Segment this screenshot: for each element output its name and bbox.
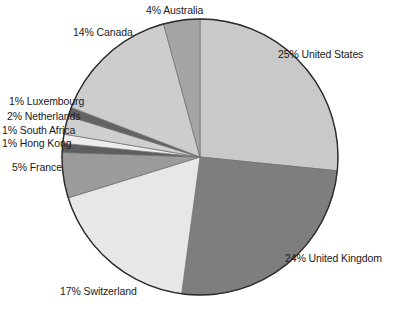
pie-label-hong-kong: 1% Hong Kong: [2, 137, 71, 149]
pie-label-switzerland: 17% Switzerland: [60, 285, 137, 297]
pie-label-australia: 4% Australia: [146, 4, 203, 16]
pie-chart-svg: [0, 0, 395, 311]
pie-label-luxembourg: 1% Luxembourg: [9, 95, 84, 107]
pie-label-canada: 14% Canada: [73, 26, 133, 38]
pie-slice-united-kingdom[interactable]: [182, 157, 338, 295]
pie-label-united-kingdom: 24% United Kingdom: [285, 252, 382, 264]
pie-label-united-states: 25% United States: [278, 48, 363, 60]
pie-chart-figure: 25% United States24% United Kingdom17% S…: [0, 0, 395, 311]
pie-label-netherlands: 2% Netherlands: [7, 110, 80, 122]
pie-slice-united-states[interactable]: [200, 19, 338, 171]
pie-label-france: 5% France: [12, 161, 62, 173]
pie-label-south-africa: 1% South Africa: [2, 124, 75, 136]
